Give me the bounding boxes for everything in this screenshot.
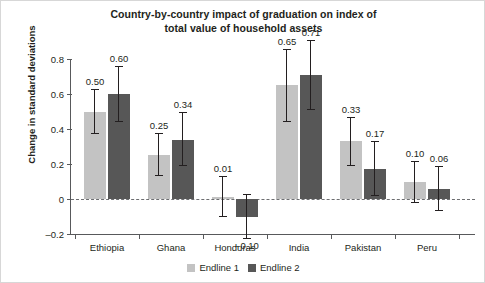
- bar-group: 0.650.71: [267, 59, 331, 234]
- bar-e2[interactable]: [300, 75, 322, 199]
- legend-swatch-endline-2: [248, 264, 256, 272]
- legend-item-endline-2: Endline 2: [248, 262, 300, 273]
- error-bar: [246, 194, 247, 240]
- bar-value-label: 0.25: [137, 120, 181, 131]
- error-bar: [118, 66, 119, 122]
- chart-figure: Country-by-country impact of graduation …: [0, 0, 485, 283]
- x-axis-tick-mark: [75, 234, 76, 239]
- bar-value-label: 0.71: [289, 27, 333, 38]
- error-bar: [158, 133, 159, 177]
- bar-value-label: 0.01: [201, 163, 245, 174]
- y-axis-tick-label: 0: [8, 194, 71, 205]
- bar-group: 0.01–0.10: [203, 59, 267, 234]
- bar-e1[interactable]: [148, 155, 170, 199]
- legend-swatch-endline-1: [187, 264, 195, 272]
- chart-title-line-1: Country-by-country impact of graduation …: [110, 8, 376, 20]
- y-axis-tick-mark: [67, 164, 72, 165]
- bar-value-label: 0.33: [329, 104, 373, 115]
- y-axis-tick-mark: [67, 59, 72, 60]
- legend-label-endline-2: Endline 2: [260, 262, 300, 273]
- error-bar: [374, 141, 375, 195]
- bar-e2[interactable]: [236, 199, 258, 217]
- bar-e2[interactable]: [172, 140, 194, 200]
- error-bar: [310, 40, 311, 110]
- plot-area: 0.80.60.40.20–0.20.500.600.250.340.01–0.…: [71, 59, 475, 234]
- x-axis-label-peru: Peru: [387, 242, 467, 253]
- error-bar: [414, 161, 415, 203]
- legend-item-endline-1: Endline 1: [187, 262, 239, 273]
- error-bar: [94, 89, 95, 135]
- bar-value-label: 0.34: [161, 99, 205, 110]
- x-axis-tick-mark: [267, 234, 268, 239]
- error-bar: [350, 117, 351, 166]
- x-axis-tick-mark: [139, 234, 140, 239]
- bar-group: 0.250.34: [139, 59, 203, 234]
- y-axis-tick-label: 0.6: [8, 89, 71, 100]
- bar-e1[interactable]: [276, 85, 298, 199]
- bar-e1[interactable]: [340, 141, 362, 199]
- error-bar: [222, 176, 223, 216]
- y-axis-tick-label: 0.8: [8, 54, 71, 65]
- x-axis-tick-mark: [395, 234, 396, 239]
- x-axis-tick-mark: [203, 234, 204, 239]
- y-axis-tick-label: 0.4: [8, 124, 71, 135]
- y-axis-tick-label: –0.2: [8, 229, 71, 240]
- bar-e1[interactable]: [84, 112, 106, 200]
- x-axis-line: [70, 234, 475, 235]
- y-axis-tick-label: 0.2: [8, 159, 71, 170]
- bar-value-label: 0.06: [417, 153, 461, 164]
- legend-label-endline-1: Endline 1: [199, 262, 239, 273]
- error-bar: [286, 49, 287, 123]
- bar-value-label: 0.50: [73, 76, 117, 87]
- x-axis-tick-mark: [331, 234, 332, 239]
- error-bar: [182, 112, 183, 166]
- bar-group: 0.500.60: [75, 59, 139, 234]
- bar-e2[interactable]: [108, 94, 130, 199]
- bar-e1[interactable]: [212, 197, 234, 199]
- bar-value-label: 0.17: [353, 128, 397, 139]
- bar-group: 0.100.06: [395, 59, 459, 234]
- chart-title-line-2: total value of household assets: [1, 21, 485, 35]
- x-axis-tick-mark: [459, 234, 460, 239]
- error-bar: [438, 166, 439, 212]
- bar-group: 0.330.17: [331, 59, 395, 234]
- bar-e2[interactable]: [428, 189, 450, 200]
- y-axis-tick-mark: [67, 234, 72, 235]
- chart-title: Country-by-country impact of graduation …: [1, 7, 485, 35]
- chart-legend: Endline 1 Endline 2: [1, 262, 485, 273]
- bar-e1[interactable]: [404, 182, 426, 200]
- y-axis-tick-mark: [67, 129, 72, 130]
- bar-value-label: 0.60: [97, 53, 141, 64]
- y-axis-tick-mark: [67, 94, 72, 95]
